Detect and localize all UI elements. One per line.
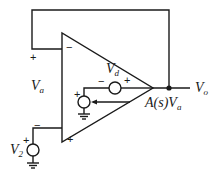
- vd-minus-sign: −: [98, 76, 104, 87]
- label-va: Va: [31, 79, 44, 95]
- v2-plus-sign: +: [23, 135, 29, 146]
- label-v2: V2: [10, 143, 23, 159]
- label-vo: Vo: [195, 81, 208, 97]
- arrowhead-icon: [91, 100, 97, 105]
- inverting-input-sign: −: [66, 42, 72, 53]
- internal-wire: [84, 88, 109, 96]
- noninverting-input-sign: +: [67, 134, 73, 145]
- v2-minus-sign: −: [34, 120, 40, 131]
- dependent-plus-sign: +: [74, 89, 80, 100]
- label-vd: Vd: [106, 62, 119, 78]
- vd-source: [109, 82, 121, 94]
- label-dependent-source: A(s)Va: [145, 96, 181, 112]
- feedback-plus-sign: +: [30, 52, 36, 63]
- junction-dot: [166, 85, 171, 90]
- vd-plus-sign: +: [124, 75, 130, 86]
- circuit-diagram: + − + − + + − + Va Vd Vo V2 A(s)Va: [0, 0, 219, 184]
